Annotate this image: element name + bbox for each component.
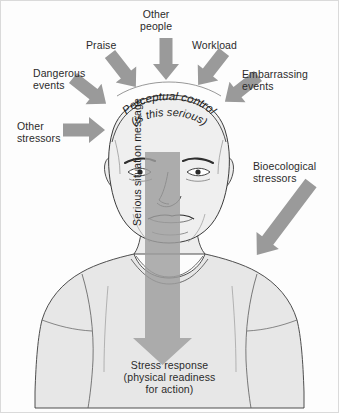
stress-model-illustration: Perceptual control (is this serious): [0, 0, 339, 413]
label-bioecological-stressors: Bioecological stressors: [253, 160, 316, 184]
label-workload: Workload: [192, 39, 237, 51]
label-other-stressors: Other stressors: [17, 120, 61, 144]
label-dangerous-events: Dangerous events: [33, 67, 85, 91]
label-serious-situation-message: Serious situation message: [131, 106, 143, 226]
label-embarrassing-events: Embarrassing events: [242, 68, 308, 92]
pupil-right: [195, 169, 200, 174]
label-praise: Praise: [86, 39, 116, 51]
label-stress-response: Stress response (physical readiness for …: [0, 359, 339, 395]
diagram-canvas: Perceptual control (is this serious): [0, 0, 339, 413]
label-other-people: Other people: [140, 8, 172, 32]
